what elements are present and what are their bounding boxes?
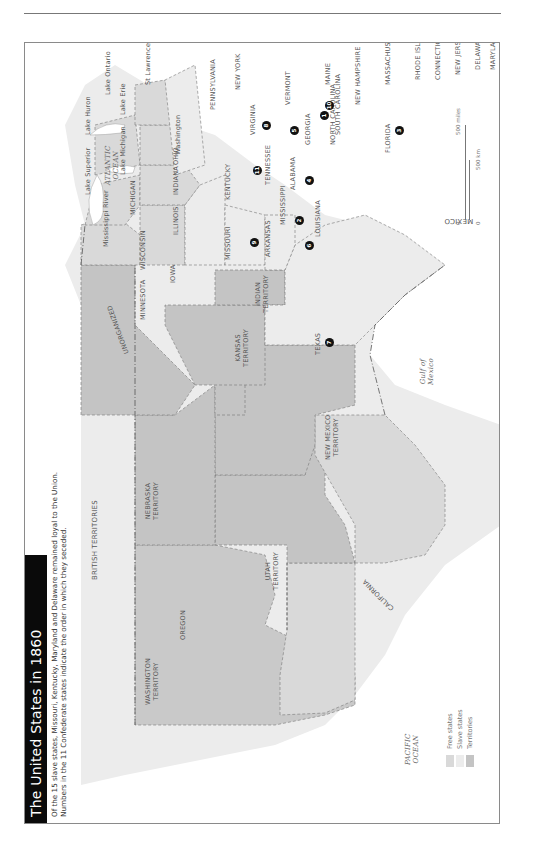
subtitle-line-2: Numbers in the 11 Confederate states ind… bbox=[59, 257, 68, 817]
scale-km: 500 km bbox=[475, 149, 481, 170]
label-connecticut: CONNECTICUT bbox=[435, 42, 443, 80]
label-lake-huron: Lake Huron bbox=[85, 96, 93, 135]
legend-free-states: Free states bbox=[445, 709, 455, 767]
map-legend: Free states Slave states Territories bbox=[445, 709, 475, 767]
secession-badge-texas: 7 bbox=[325, 338, 334, 347]
scale-miles: 500 miles bbox=[455, 108, 461, 135]
label-michigan: MICHIGAN bbox=[130, 180, 138, 215]
subtitle-line-1: Of the 15 slave states, Missouri, Kentuc… bbox=[50, 257, 59, 817]
label-british-territories: BRITISH TERRITORIES bbox=[92, 500, 100, 580]
label-pacific-ocean: PACIFIC OCEAN bbox=[405, 733, 420, 765]
oregon-shape bbox=[280, 563, 355, 715]
top-rule bbox=[24, 13, 501, 14]
map-svg bbox=[25, 43, 500, 824]
label-mississippi: MISSISSIPPI bbox=[280, 185, 288, 225]
label-minnesota: MINNESOTA bbox=[140, 280, 148, 320]
label-indian-territory: INDIAN TERRITORY bbox=[255, 275, 270, 313]
legend-swatch-free bbox=[446, 755, 454, 767]
legend-territories: Territories bbox=[465, 709, 475, 767]
secession-badge-north-carolina: 10 bbox=[325, 101, 334, 110]
label-tennessee: TENNESSEE bbox=[265, 145, 273, 185]
label-massachusetts: MASSACHUSETTS bbox=[385, 42, 393, 85]
label-wisconsin: WISCONSIN bbox=[140, 230, 148, 270]
label-north-carolina: NORTH CAROLINA bbox=[330, 84, 338, 145]
secession-badge-arkansas: 9 bbox=[250, 238, 259, 247]
label-alabama: ALABAMA bbox=[290, 157, 298, 190]
label-kentucky: KENTUCKY bbox=[225, 164, 233, 200]
legend-swatch-territories bbox=[466, 755, 474, 767]
legend-slave-states: Slave states bbox=[455, 709, 465, 767]
scale-bar: 0 500 miles 0 500 km bbox=[455, 55, 495, 225]
label-mississippi-river: Mississippi River bbox=[103, 190, 111, 247]
label-nebraska-territory: NEBRASKA TERRITORY bbox=[145, 482, 160, 520]
secession-badge-virginia: 8 bbox=[262, 121, 271, 130]
label-kansas-territory: KANSAS TERRITORY bbox=[235, 329, 250, 367]
label-illinois: ILLINOIS bbox=[173, 206, 181, 235]
label-st-lawrence-river: St Lawrence River bbox=[145, 42, 153, 85]
label-georgia: GEORGIA bbox=[305, 113, 313, 145]
label-lake-michigan: Lake Michigan bbox=[120, 126, 128, 175]
label-rhode-island: RHODE ISLAND bbox=[415, 42, 423, 80]
scale-line-miles bbox=[465, 125, 466, 220]
legend-swatch-slave bbox=[456, 755, 464, 767]
label-lake-erie: Lake Erie bbox=[120, 83, 128, 115]
secession-badge-mississippi: 2 bbox=[295, 216, 304, 225]
label-washington-territory: WASHINGTON TERRITORY bbox=[145, 658, 160, 705]
label-missouri: MISSOURI bbox=[225, 226, 233, 260]
label-atlantic-ocean: ATLANTIC OCEAN bbox=[105, 145, 120, 185]
label-oregon: OREGON bbox=[180, 610, 188, 640]
secession-badge-tennessee: 11 bbox=[253, 166, 262, 175]
map-canvas: The United States in 1860 Of the 15 slav… bbox=[25, 43, 500, 824]
scale-zero-miles: 0 bbox=[455, 222, 461, 226]
secession-badge-florida: 3 bbox=[395, 126, 404, 135]
secession-badge-louisiana: 6 bbox=[305, 241, 314, 250]
map-subtitle: Of the 15 slave states, Missouri, Kentuc… bbox=[50, 257, 68, 817]
secession-badge-alabama: 4 bbox=[305, 176, 314, 185]
label-virginia: VIRGINIA bbox=[250, 104, 258, 135]
label-gulf-of-mexico: Gulf of Mexico bbox=[420, 358, 435, 385]
scale-zero-km: 0 bbox=[475, 222, 481, 226]
label-louisiana: LOUISIANA bbox=[315, 200, 323, 237]
label-lake-ontario: Lake Ontario bbox=[105, 51, 113, 95]
label-washington-city: Washington bbox=[175, 115, 183, 155]
label-iowa: IOWA bbox=[170, 265, 178, 283]
label-arkansas: ARKANSAS bbox=[265, 220, 273, 257]
label-vermont: VERMONT bbox=[285, 71, 293, 105]
label-new-mexico-territory: NEW MEXICO TERRITORY bbox=[325, 415, 340, 460]
map-title: The United States in 1860 bbox=[25, 555, 47, 824]
secession-badge-south-carolina: 1 bbox=[320, 111, 329, 120]
label-pennsylvania: PENNSYLVANIA bbox=[210, 59, 218, 110]
label-lake-superior: Lake Superior bbox=[85, 148, 93, 195]
label-new-hampshire: NEW HAMPSHIRE bbox=[355, 47, 363, 105]
indian-territory-shape bbox=[215, 270, 285, 305]
map-frame: The United States in 1860 Of the 15 slav… bbox=[24, 42, 500, 824]
scale-line-km bbox=[469, 160, 470, 220]
label-florida: FLORIDA bbox=[385, 124, 393, 153]
label-texas: TEXAS bbox=[315, 333, 323, 355]
label-maine: MAINE bbox=[325, 63, 333, 85]
label-indiana: INDIANA bbox=[173, 166, 181, 195]
label-new-york: NEW YORK bbox=[235, 53, 243, 90]
label-utah-territory: UTAH TERRITORY bbox=[265, 552, 280, 590]
secession-badge-georgia: 5 bbox=[290, 126, 299, 135]
